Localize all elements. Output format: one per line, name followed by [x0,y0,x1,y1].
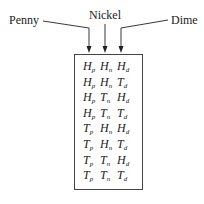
outcome-term: Td [117,168,134,188]
outcome-row: HpHnTd [75,75,142,91]
outcome-term: Tn [100,168,117,188]
outcome-row: HpHnHd [75,59,142,75]
outcome-row: TpTnTd [75,168,142,184]
outcome-term: Tp [83,168,100,188]
outcomes-box: HpHnHdHpHnTdHpTnHdHpTnTdTpHnHdTpHnTdTpTn… [74,54,143,190]
penny-arrow [43,21,89,47]
outcomes-list: HpHnHdHpHnTdHpTnHdHpTnTdTpHnHdTpHnTdTpTn… [75,59,142,184]
dime-arrow [121,20,168,47]
outcome-row: TpHnTd [75,137,142,153]
outcome-row: TpHnHd [75,121,142,137]
outcome-row: TpTnHd [75,153,142,169]
outcome-row: HpTnHd [75,90,142,106]
outcome-row: HpTnTd [75,106,142,122]
